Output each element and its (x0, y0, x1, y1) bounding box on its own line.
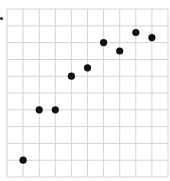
data-point (100, 39, 107, 46)
data-point (116, 47, 123, 54)
data-point (148, 34, 155, 41)
chart-canvas (0, 0, 170, 181)
data-point (52, 106, 59, 113)
grid-lines (7, 9, 168, 177)
data-point (68, 73, 75, 80)
data-point (36, 106, 43, 113)
data-point (84, 64, 91, 71)
data-point (20, 157, 27, 164)
data-point (132, 29, 139, 36)
